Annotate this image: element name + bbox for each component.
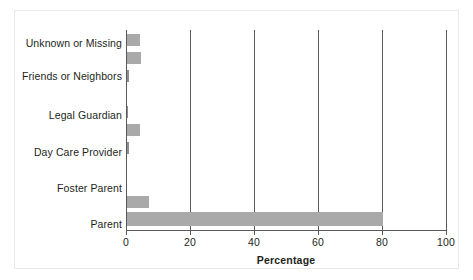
bar-friends-or-neighbors: [127, 70, 129, 82]
x-tick-label-0: 0: [123, 236, 129, 248]
y-axis-label-legal-guardian: Legal Guardian: [4, 109, 122, 121]
y-axis-label-day-care-provider: Day Care Provider: [4, 146, 122, 158]
y-axis-label-unknown-or-missing: Unknown or Missing: [4, 37, 122, 49]
gridline-80: [382, 30, 383, 230]
x-tick-0: [126, 231, 127, 235]
bar-unknown-or-missing: [127, 34, 140, 46]
y-axis-label-foster-parent: Foster Parent: [4, 182, 122, 194]
x-tick-100: [446, 231, 447, 235]
bar-unlabeled: [127, 52, 141, 64]
bar-day-care-provider: [127, 124, 140, 136]
x-axis-title: Percentage: [126, 254, 446, 266]
x-tick-label-100: 100: [437, 236, 455, 248]
x-tick-60: [318, 231, 319, 235]
x-tick-label-20: 20: [184, 236, 196, 248]
x-tick-label-60: 60: [312, 236, 324, 248]
bar-above-parent: [127, 196, 149, 208]
gridline-40: [254, 30, 255, 230]
x-tick-80: [382, 231, 383, 235]
bar-foster-parent: [127, 142, 129, 154]
y-axis-line: [126, 30, 127, 231]
gridline-60: [318, 30, 319, 230]
chart-page: Unknown or Missing Friends or Neighbors …: [0, 0, 473, 280]
gridline-100: [446, 30, 447, 230]
x-tick-label-40: 40: [248, 236, 260, 248]
y-axis-labels: Unknown or Missing Friends or Neighbors …: [4, 0, 122, 280]
y-axis-label-friends-or-neighbors: Friends or Neighbors: [4, 70, 122, 82]
bar-parent: [127, 212, 383, 226]
x-axis-line: [126, 230, 447, 231]
bar-legal-guardian: [127, 106, 128, 118]
gridline-20: [190, 30, 191, 230]
x-tick-20: [190, 231, 191, 235]
x-tick-40: [254, 231, 255, 235]
y-axis-label-parent: Parent: [4, 218, 122, 230]
x-tick-label-80: 80: [376, 236, 388, 248]
